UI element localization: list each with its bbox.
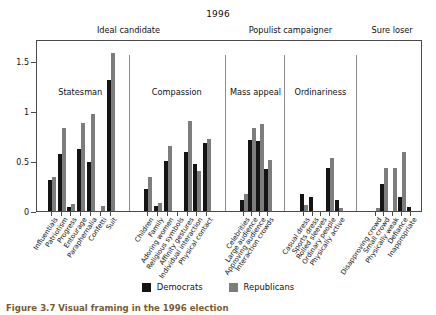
y-axis: 00.511.5 bbox=[0, 40, 36, 212]
supergroup-label: Sure loser bbox=[332, 25, 436, 35]
y-tick-label: 1 bbox=[24, 108, 29, 117]
legend-item: Democrats bbox=[142, 282, 203, 292]
y-tick-label: 0.5 bbox=[16, 158, 29, 167]
panel-divider bbox=[129, 55, 130, 211]
figure-caption: Figure 3.7 Visual framing in the 1996 el… bbox=[6, 303, 426, 313]
legend-label: Democrats bbox=[157, 282, 203, 292]
legend-label: Republicans bbox=[244, 282, 295, 292]
legend: DemocratsRepublicans bbox=[0, 282, 436, 292]
figure-visual-framing-1996: 1996 Ideal candidatePopulist campaignerS… bbox=[0, 0, 436, 315]
panel-label: Ordinariness bbox=[289, 87, 351, 97]
legend-swatch-icon bbox=[229, 283, 238, 292]
bar-rep-23 bbox=[376, 208, 380, 211]
panel-label: Mass appeal bbox=[230, 87, 279, 97]
supergroup-label: Ideal candidate bbox=[69, 25, 189, 35]
bar-rep-0 bbox=[52, 177, 56, 211]
bar-rep-18 bbox=[304, 205, 308, 211]
legend-swatch-icon bbox=[142, 283, 151, 292]
panel-label: Compassion bbox=[134, 87, 221, 97]
supergroup-header-row: Ideal candidatePopulist campaignerSure l… bbox=[36, 25, 422, 38]
x-axis-labels: InfluentialsPatriotismProgressEntourageP… bbox=[0, 214, 436, 284]
y-tick-label: 1.5 bbox=[16, 58, 29, 67]
chart-title: 1996 bbox=[0, 9, 436, 19]
bar-rep-7 bbox=[148, 177, 152, 211]
legend-item: Republicans bbox=[229, 282, 295, 292]
